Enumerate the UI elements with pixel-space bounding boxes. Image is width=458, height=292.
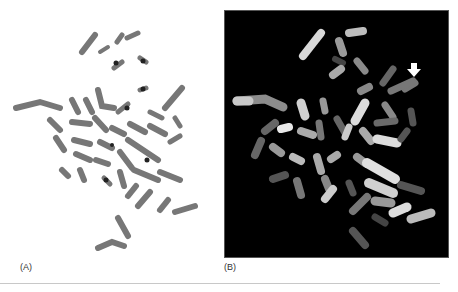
fluorescent-chromosomes-image [225,11,448,257]
panel-b-label: (B) [224,262,236,272]
panel-a-label: (A) [20,262,32,272]
panel-a-gbanded-spread [0,0,222,258]
figure-divider [0,283,440,284]
gbanded-chromosomes-image [0,0,222,258]
panel-b-fluorescent-spread [224,10,449,258]
arrow-indicator-icon [407,63,421,77]
